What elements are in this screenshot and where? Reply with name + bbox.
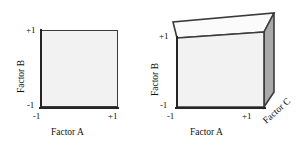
two-factor-square-panel: +1 -1 -1 +1 Factor B Factor A (0, 0, 149, 155)
x-axis-title-factor-a-2d: Factor A (51, 127, 84, 137)
x-axis-title-factor-a-3d: Factor A (190, 127, 223, 137)
y-axis-line-3d (176, 36, 178, 109)
cube-face-front (177, 32, 264, 107)
y-axis-title-factor-b-2d: Factor B (16, 60, 26, 93)
design-space-cube (149, 0, 298, 155)
y-axis-line-2d (40, 29, 42, 109)
x-axis-line-2d (39, 107, 119, 109)
x-axis-line-3d (175, 107, 266, 109)
design-space-figure: +1 -1 -1 +1 Factor B Factor A +1 -1 -1 +… (0, 0, 298, 155)
cube-svg (149, 0, 298, 155)
y-axis-tick-lower-2d: -1 (27, 101, 34, 110)
x-axis-tick-left-3d: -1 (167, 112, 174, 121)
three-factor-cube-panel: +1 -1 -1 +1 Factor B Factor A Factor C (149, 0, 298, 155)
x-axis-tick-left-2d: -1 (33, 112, 40, 121)
y-axis-tick-upper-2d: +1 (26, 26, 35, 35)
x-axis-tick-right-3d: +1 (242, 112, 251, 121)
y-axis-title-factor-b-3d: Factor B (150, 63, 160, 96)
y-axis-tick-lower-3d: -1 (160, 101, 167, 110)
design-space-square (41, 30, 118, 107)
x-axis-tick-right-2d: +1 (108, 112, 117, 121)
y-axis-tick-upper-3d: +1 (159, 32, 168, 41)
